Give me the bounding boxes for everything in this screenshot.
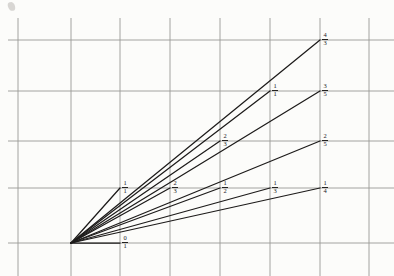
ray-diagram-svg [0, 0, 394, 276]
fraction-numerator: 4 [318, 32, 332, 39]
fraction-numerator: 2 [318, 133, 332, 140]
figure-canvas: 0111122313142325113543 [0, 0, 394, 276]
fraction-label: 43 [318, 32, 332, 47]
ray-line [71, 40, 320, 243]
fraction-label: 14 [318, 180, 332, 195]
fraction-numerator: 1 [218, 180, 232, 187]
ray-lines [71, 40, 320, 243]
ray-line [71, 91, 320, 243]
fraction-label: 12 [218, 180, 232, 195]
fraction-label: 01 [118, 235, 132, 250]
fraction-label: 23 [168, 180, 182, 195]
fraction-label: 25 [318, 133, 332, 148]
ray-line [71, 91, 270, 243]
fraction-label: 11 [268, 83, 282, 98]
ray-line [71, 188, 320, 243]
fraction-denominator: 5 [318, 141, 332, 148]
fraction-label: 11 [118, 180, 132, 195]
fraction-numerator: 1 [268, 180, 282, 187]
fraction-numerator: 3 [318, 83, 332, 90]
fraction-numerator: 0 [118, 235, 132, 242]
fraction-numerator: 1 [318, 180, 332, 187]
fraction-label: 13 [268, 180, 282, 195]
fraction-denominator: 3 [318, 40, 332, 47]
fraction-denominator: 3 [268, 188, 282, 195]
fraction-numerator: 1 [268, 83, 282, 90]
ray-line [71, 188, 270, 243]
fraction-numerator: 1 [118, 180, 132, 187]
ray-line [71, 141, 320, 243]
fraction-denominator: 4 [318, 188, 332, 195]
grid-lines [8, 18, 394, 276]
fraction-denominator: 2 [218, 188, 232, 195]
fraction-denominator: 5 [318, 91, 332, 98]
fraction-denominator: 1 [118, 188, 132, 195]
ray-line [71, 188, 120, 243]
fraction-denominator: 1 [268, 91, 282, 98]
fraction-denominator: 1 [118, 243, 132, 250]
fraction-label: 23 [218, 133, 232, 148]
fraction-denominator: 3 [218, 141, 232, 148]
fraction-label: 35 [318, 83, 332, 98]
fraction-denominator: 3 [168, 188, 182, 195]
fraction-numerator: 2 [168, 180, 182, 187]
ray-line [71, 141, 220, 243]
fraction-numerator: 2 [218, 133, 232, 140]
